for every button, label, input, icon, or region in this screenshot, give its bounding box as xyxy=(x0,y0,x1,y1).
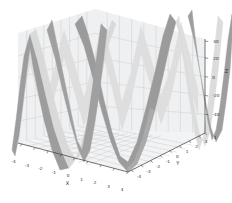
z-tick-label: -40 xyxy=(213,112,220,117)
x-tick-label: 4 xyxy=(121,187,124,192)
x-axis-title: X xyxy=(66,180,70,186)
x-tick-label: 2 xyxy=(94,180,97,185)
z-tick-label: 20 xyxy=(213,56,219,61)
y-axis-title: Y xyxy=(175,160,180,166)
x-tick-label: 1 xyxy=(80,177,83,182)
x-tick-label: 0 xyxy=(67,173,70,178)
y-tick-label: 1 xyxy=(186,149,189,154)
y-tick-label: 4 xyxy=(213,135,216,140)
z-axis-title: Z xyxy=(225,68,229,74)
x-tick-label: -3 xyxy=(25,163,30,168)
y-tick-label: -2 xyxy=(156,164,161,169)
y-tick-label: -4 xyxy=(137,174,142,179)
z-tick-label: 0 xyxy=(212,75,215,80)
y-tick-label: 2 xyxy=(195,144,198,149)
y-tick-label: -1 xyxy=(166,159,171,164)
y-tick-label: 3 xyxy=(205,139,208,144)
x-tick-label: -4 xyxy=(11,159,16,164)
x-tick-label: 3 xyxy=(107,184,110,189)
y-tick-label: 0 xyxy=(176,154,179,159)
surface-plot-3d: -4 -3 -2 -1 0 1 2 3 4 X -4 xyxy=(0,0,232,203)
z-tick-label: -20 xyxy=(213,93,220,98)
x-tick-label: -1 xyxy=(52,170,57,175)
x-tick-label: -2 xyxy=(38,166,43,171)
z-tick-label: 40 xyxy=(213,39,219,44)
y-tick-label: -3 xyxy=(147,169,152,174)
figure-canvas: -4 -3 -2 -1 0 1 2 3 4 X -4 xyxy=(0,0,232,203)
